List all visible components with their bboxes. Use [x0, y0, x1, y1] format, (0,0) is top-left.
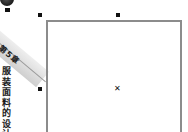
selection-frame-left-edge[interactable]: [46, 20, 48, 132]
resize-handle-middle-left[interactable]: [38, 87, 42, 91]
chapter-title-vertical: 服装面料的设计: [0, 66, 12, 132]
selection-frame-right-edge[interactable]: [180, 20, 182, 132]
resize-handle-top-left[interactable]: [38, 13, 42, 17]
selection-frame-top-edge[interactable]: [46, 20, 181, 22]
bulb-decoration-icon: [0, 0, 14, 6]
bulb-base-decoration: [5, 8, 10, 12]
resize-handle-top-middle[interactable]: [116, 13, 120, 17]
center-cross-icon[interactable]: ✕: [114, 85, 121, 93]
document-page: 第5章 服装面料的设计 ✕: [0, 0, 188, 132]
